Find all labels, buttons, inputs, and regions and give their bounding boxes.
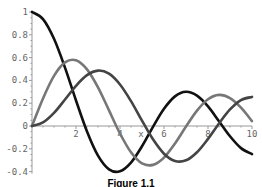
x-tick-label: 10 bbox=[247, 129, 258, 139]
y-tick-label: -0.2 bbox=[6, 144, 28, 154]
figure-caption: Figure 1.1 bbox=[0, 178, 262, 187]
series-line-j0x bbox=[32, 12, 252, 172]
x-axis-label: x bbox=[138, 129, 144, 139]
line-chart: 246810-0.4-0.200.20.40.60.81x bbox=[0, 0, 262, 178]
y-tick-label: 0 bbox=[23, 121, 28, 131]
y-tick-label: 0.8 bbox=[12, 30, 28, 40]
y-tick-label: 0.2 bbox=[12, 98, 28, 108]
y-tick-label: 0.4 bbox=[12, 75, 28, 85]
x-tick-label: 6 bbox=[161, 129, 166, 139]
series-group bbox=[32, 12, 252, 172]
y-tick-label: 1 bbox=[23, 7, 28, 17]
y-tick-label: 0.6 bbox=[12, 53, 28, 63]
y-tick-label: -0.4 bbox=[6, 167, 28, 177]
axes: 246810-0.4-0.200.20.40.60.81x bbox=[6, 7, 257, 177]
x-tick-label: 2 bbox=[73, 129, 78, 139]
series-line-j1x bbox=[32, 60, 252, 166]
